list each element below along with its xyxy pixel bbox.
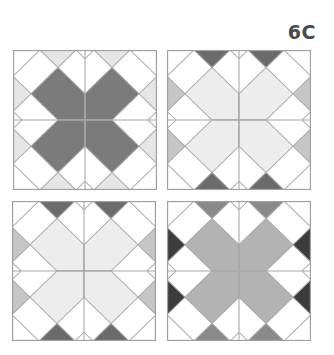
block-light-x-dark-top-bottom xyxy=(167,50,311,190)
block-light-x-dark-top-bottom-alt xyxy=(12,201,156,341)
block-dark-x xyxy=(13,50,157,190)
block-medium-x-black-sides xyxy=(167,201,311,341)
block-set-label: 6C xyxy=(276,21,316,43)
